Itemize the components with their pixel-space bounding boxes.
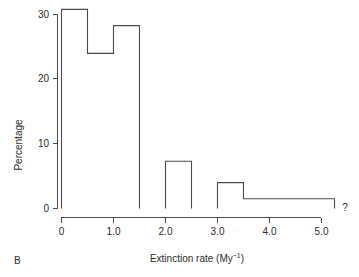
- y-tick-label-30: 30: [38, 9, 50, 20]
- y-tick-label-10: 10: [38, 138, 50, 149]
- x-tick-label-4: 4.0: [263, 226, 277, 237]
- y-tick-label-0: 0: [43, 203, 49, 214]
- histogram-outline-group-2: [166, 161, 192, 208]
- histogram-outline-group-1: [62, 9, 140, 208]
- y-axis-title: Percentage: [13, 119, 24, 171]
- uncertainty-question-mark: ?: [342, 202, 348, 213]
- x-tick-label-0: 0: [59, 226, 65, 237]
- histogram-outline-group-3: [218, 183, 335, 209]
- x-axis-title-tail: ): [241, 253, 244, 264]
- x-tick-label-2: 2.0: [159, 226, 173, 237]
- x-tick-label-3: 3.0: [211, 226, 225, 237]
- panel-label-b: B: [14, 255, 21, 266]
- figure-panel-b: 30 20 10 0 Percentage 0 1.0 2.0 3.0 4.0 …: [0, 0, 359, 277]
- x-axis-title-main: Extinction rate (My: [150, 253, 233, 264]
- x-tick-label-1: 1.0: [107, 226, 121, 237]
- x-axis-title-superscript: −1: [233, 252, 241, 259]
- x-tick-label-5: 5.0: [315, 226, 329, 237]
- x-axis-title: Extinction rate (My−1): [150, 252, 244, 264]
- histogram-chart: 30 20 10 0 Percentage 0 1.0 2.0 3.0 4.0 …: [0, 0, 359, 277]
- y-tick-label-20: 20: [38, 73, 50, 84]
